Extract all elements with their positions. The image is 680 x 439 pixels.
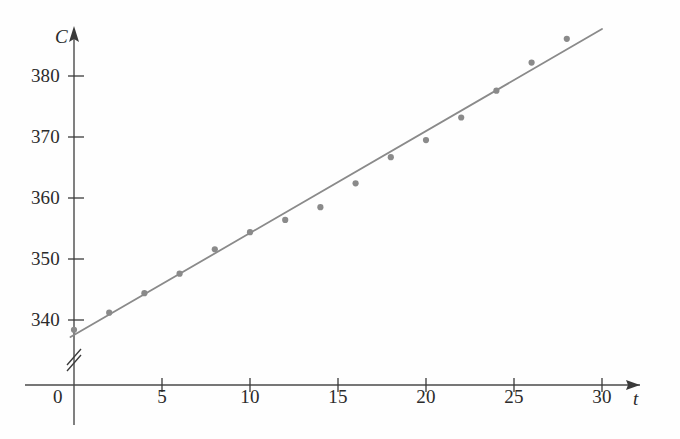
data-point-group — [71, 36, 570, 333]
data-point — [423, 137, 429, 143]
regression-line-segment — [70, 29, 602, 337]
data-point — [282, 217, 288, 223]
data-point — [141, 290, 147, 296]
data-point — [564, 36, 570, 42]
y-tick-marks — [68, 76, 84, 320]
x-tick-label: 10 — [228, 386, 272, 408]
data-point — [247, 229, 253, 235]
data-point — [388, 154, 394, 160]
data-point — [493, 88, 499, 94]
x-tick-label: 30 — [580, 386, 624, 408]
y-axis-label: C — [55, 26, 68, 48]
x-tick-label: 20 — [404, 386, 448, 408]
y-tick-label: 360 — [5, 187, 60, 209]
data-point — [106, 310, 112, 316]
x-tick-label: 5 — [140, 386, 184, 408]
data-point — [177, 271, 183, 277]
data-point — [212, 246, 218, 252]
data-point — [458, 114, 464, 120]
scatter-plot-figure: C t 0 340350360370380 51015202530 — [0, 0, 680, 439]
regression-line — [70, 29, 602, 337]
data-point — [529, 59, 535, 65]
data-point — [353, 180, 359, 186]
y-tick-label: 340 — [5, 309, 60, 331]
x-axis-label: t — [633, 388, 638, 410]
x-tick-label: 15 — [316, 386, 360, 408]
x-tick-label: 25 — [492, 386, 536, 408]
data-point — [317, 204, 323, 210]
y-tick-label: 350 — [5, 248, 60, 270]
data-point — [71, 327, 77, 333]
plot-canvas — [0, 0, 680, 439]
origin-tick-label: 0 — [53, 386, 63, 408]
y-tick-label: 370 — [5, 126, 60, 148]
y-tick-label: 380 — [5, 65, 60, 87]
